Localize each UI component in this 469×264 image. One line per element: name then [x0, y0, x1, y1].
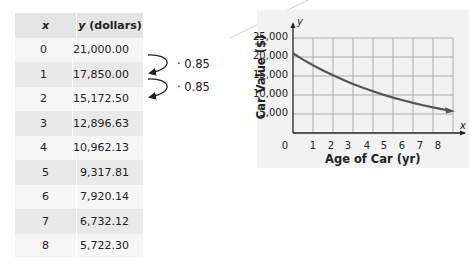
decay-curve: [293, 53, 448, 110]
y-var-label: y: [297, 16, 303, 27]
x-tick: 2: [326, 140, 336, 151]
x-tick: 8: [433, 140, 443, 151]
x-tick: 4: [362, 140, 372, 151]
x-tick: 6: [397, 140, 407, 151]
x-tick: 7: [415, 140, 425, 151]
chart-plot: [0, 0, 469, 264]
x-tick: 1: [308, 140, 318, 151]
y-axis-title: Car Value ($): [254, 32, 268, 122]
x-tick: 0: [280, 140, 290, 151]
x-axis-title: Age of Car (yr): [325, 152, 420, 166]
x-tick: 5: [379, 140, 389, 151]
x-tick: 3: [343, 140, 353, 151]
x-var-label: x: [460, 120, 466, 131]
grid: [293, 38, 453, 133]
